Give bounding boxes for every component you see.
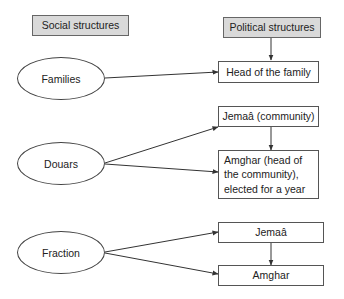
social-structures-header: Social structures — [32, 15, 129, 36]
jemaa-community-node: Jemaâ (community) — [218, 106, 319, 127]
amghar-elected-label: Amghar (head of the community), elected … — [224, 153, 313, 196]
arrow-douars-to-jemaa — [105, 127, 218, 163]
families-label: Families — [41, 73, 80, 85]
political-structures-header: Political structures — [223, 17, 321, 38]
political-header-label: Political structures — [229, 20, 314, 34]
amghar-label: Amghar — [253, 268, 290, 282]
amghar-elected-node: Amghar (head of the community), elected … — [218, 150, 319, 199]
fraction-node: Fraction — [17, 231, 105, 274]
arrow-families-to-head — [105, 72, 218, 78]
social-header-label: Social structures — [42, 18, 120, 32]
amghar-node: Amghar — [218, 265, 324, 286]
arrow-fraction-to-jemaa — [105, 232, 218, 252]
jemaa-node: Jemaâ — [218, 222, 324, 243]
head-of-family-label: Head of the family — [226, 65, 311, 79]
arrow-fraction-to-amghar — [105, 253, 218, 274]
arrow-douars-to-amghar — [105, 164, 218, 172]
douars-label: Douars — [44, 158, 78, 170]
fraction-label: Fraction — [42, 247, 80, 259]
head-of-family-node: Head of the family — [218, 61, 319, 83]
jemaa-label: Jemaâ — [255, 225, 287, 239]
families-node: Families — [17, 57, 105, 100]
douars-node: Douars — [17, 142, 105, 185]
jemaa-community-label: Jemaâ (community) — [222, 109, 314, 123]
